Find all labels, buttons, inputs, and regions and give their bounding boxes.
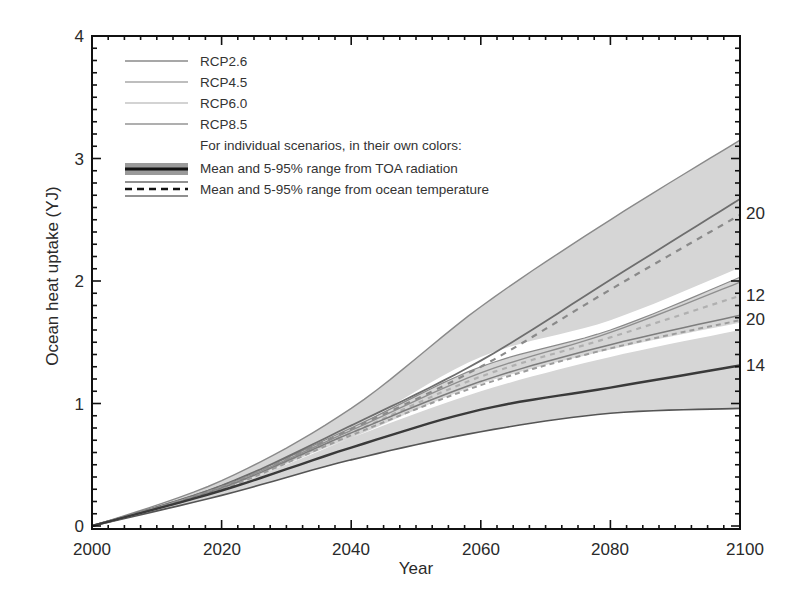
legend-label-ocean: Mean and 5-95% range from ocean temperat… <box>200 182 489 197</box>
count-label-rcp60: 12 <box>746 286 765 305</box>
count-label-rcp45: 20 <box>746 310 765 329</box>
x-tick-2020: 2020 <box>203 540 241 559</box>
legend-label-toa: Mean and 5-95% range from TOA radiation <box>200 161 458 176</box>
x-tick-2060: 2060 <box>462 540 500 559</box>
x-tick-2000: 2000 <box>73 540 111 559</box>
uncertainty-bands <box>92 140 740 526</box>
legend: RCP2.6 RCP4.5 RCP6.0 RCP8.5 For individu… <box>125 54 489 197</box>
count-label-rcp85: 20 <box>746 204 765 223</box>
x-tick-2100: 2100 <box>726 540 764 559</box>
x-tick-2040: 2040 <box>332 540 370 559</box>
ocean-heat-uptake-chart: 0 1 2 3 4 2000 2020 2040 2060 2080 2100 … <box>0 0 807 601</box>
band-envelope <box>92 140 740 526</box>
y-tick-3: 3 <box>75 150 84 169</box>
count-label-rcp26: 14 <box>746 356 765 375</box>
legend-label-rcp60: RCP6.0 <box>200 96 247 111</box>
legend-note: For individual scenarios, in their own c… <box>200 138 462 153</box>
y-tick-4: 4 <box>75 27 84 46</box>
legend-label-rcp45: RCP4.5 <box>200 75 247 90</box>
model-count-labels: 20 12 20 14 <box>746 204 765 375</box>
legend-label-rcp85: RCP8.5 <box>200 117 247 132</box>
y-tick-1: 1 <box>75 395 84 414</box>
y-axis-title: Ocean heat uptake (YJ) <box>43 186 62 366</box>
legend-label-rcp26: RCP2.6 <box>200 54 247 69</box>
y-tick-2: 2 <box>75 272 84 291</box>
x-tick-2080: 2080 <box>591 540 629 559</box>
y-tick-labels: 0 1 2 3 4 <box>75 27 84 536</box>
x-tick-labels: 2000 2020 2040 2060 2080 2100 <box>73 540 764 559</box>
x-axis-title: Year <box>399 559 434 578</box>
y-tick-0: 0 <box>75 517 84 536</box>
